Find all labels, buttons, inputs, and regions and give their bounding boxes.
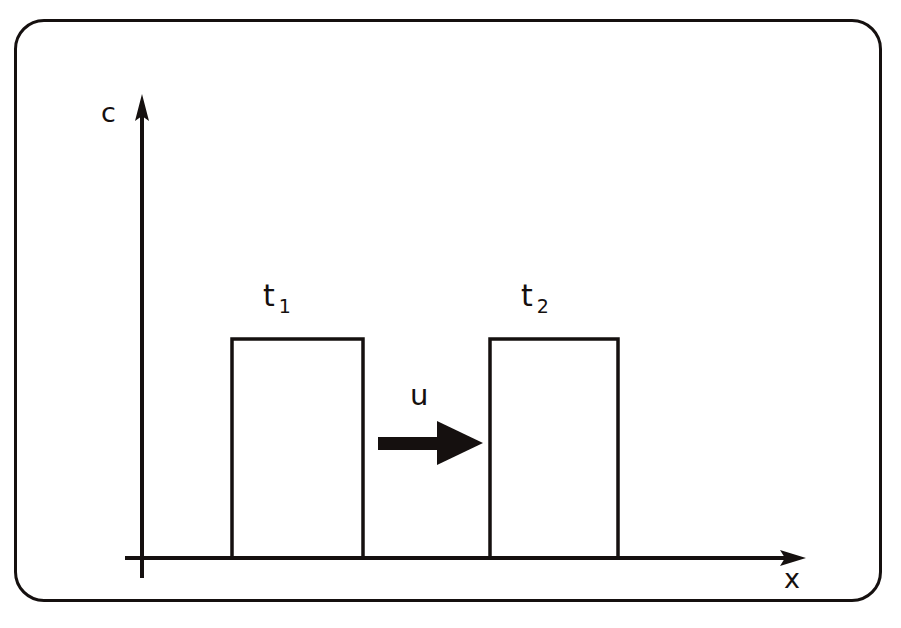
velocity-arrow-label: u <box>410 381 428 410</box>
pulse-t2-label: t2 <box>521 281 545 311</box>
pulse-t1-rectangle <box>232 339 363 558</box>
pulse-t1-label-subscript: 1 <box>279 295 291 317</box>
velocity-arrow-shaft <box>378 437 440 450</box>
velocity-arrow-icon <box>378 421 483 465</box>
pulse-t2-label-subscript: 2 <box>537 295 549 317</box>
concentration-axis <box>135 94 149 578</box>
velocity-arrow-head <box>437 421 483 465</box>
pulse-t1-label-base: t <box>263 278 275 313</box>
position-axis-label: x <box>784 565 800 592</box>
position-axis <box>125 550 806 566</box>
pulse-t2-label-base: t <box>521 278 533 313</box>
diagram-vector-layer <box>0 0 901 628</box>
pulse-t1-label: t1 <box>263 281 287 311</box>
concentration-axis-label: c <box>101 99 116 126</box>
pulse-t2-rectangle <box>490 339 618 558</box>
figure-canvas: c x t1 t2 u <box>0 0 901 628</box>
